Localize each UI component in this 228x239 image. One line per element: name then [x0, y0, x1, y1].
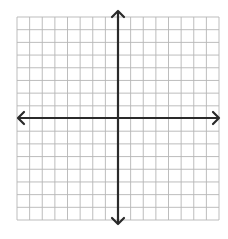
coordinate-plane — [0, 0, 228, 239]
axes — [18, 11, 219, 224]
